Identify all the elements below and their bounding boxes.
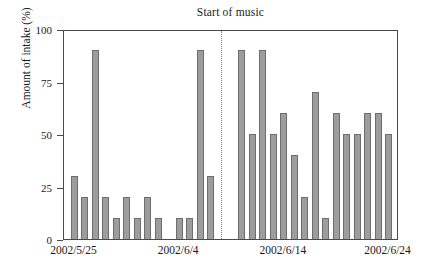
y-axis-tick-label-0: 0 bbox=[22, 235, 52, 246]
y-axis-tick-0 bbox=[57, 240, 63, 241]
bar bbox=[259, 50, 266, 239]
bar bbox=[385, 134, 392, 239]
bar bbox=[375, 113, 382, 239]
bar bbox=[134, 218, 141, 239]
bar bbox=[333, 113, 340, 239]
bar bbox=[123, 197, 130, 239]
bar bbox=[291, 155, 298, 239]
start-of-music-marker-line bbox=[221, 31, 222, 239]
x-axis-tick-label: 2002/6/24 bbox=[364, 244, 411, 256]
y-axis-tick-100 bbox=[57, 30, 63, 31]
chart-figure: Start of music Amount of intake (%) 1007… bbox=[0, 0, 428, 279]
x-axis-tick-label: 2002/6/14 bbox=[260, 244, 307, 256]
x-axis-tick-label: 2002/6/4 bbox=[158, 244, 199, 256]
bar bbox=[312, 92, 319, 239]
bar bbox=[155, 218, 162, 239]
y-axis-tick-50 bbox=[57, 135, 63, 136]
bar bbox=[280, 113, 287, 239]
bar bbox=[343, 134, 350, 239]
y-axis-tick-label-100: 100 bbox=[22, 25, 52, 36]
y-axis-tick-25 bbox=[57, 188, 63, 189]
chart-title: Start of music bbox=[63, 6, 398, 18]
bar bbox=[81, 197, 88, 239]
x-axis-tick-label: 2002/5/25 bbox=[50, 244, 97, 256]
bar bbox=[197, 50, 204, 239]
bar bbox=[176, 218, 183, 239]
bar bbox=[102, 197, 109, 239]
plot-area bbox=[63, 30, 398, 240]
y-axis-tick-label-25: 25 bbox=[22, 182, 52, 193]
y-axis-tick-75 bbox=[57, 83, 63, 84]
bar bbox=[92, 50, 99, 239]
bar bbox=[322, 218, 329, 239]
bar bbox=[270, 134, 277, 239]
bar bbox=[186, 218, 193, 239]
bar bbox=[354, 134, 361, 239]
y-axis-tick-labels: 1007550250 bbox=[22, 0, 52, 279]
bar bbox=[113, 218, 120, 239]
bar bbox=[301, 197, 308, 239]
bar bbox=[249, 134, 256, 239]
y-axis-tick-label-75: 75 bbox=[22, 77, 52, 88]
bar bbox=[71, 176, 78, 239]
bar bbox=[364, 113, 371, 239]
bar bbox=[144, 197, 151, 239]
y-axis-tick-label-50: 50 bbox=[22, 130, 52, 141]
bar bbox=[238, 50, 245, 239]
bar bbox=[207, 176, 214, 239]
